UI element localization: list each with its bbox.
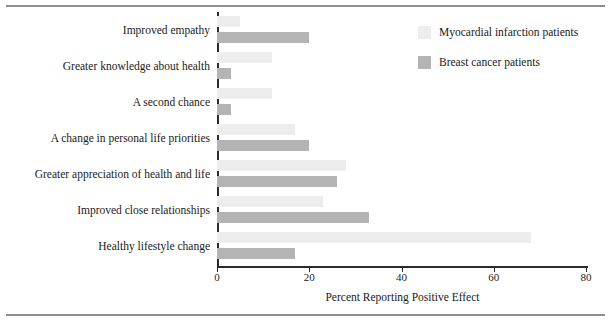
top-divider-rule xyxy=(6,5,605,7)
chart-category-row: Improved close relationships xyxy=(217,196,586,223)
y-axis-category-label: Improved close relationships xyxy=(77,204,210,217)
legend-item: Breast cancer patients xyxy=(418,52,578,72)
chart-legend: Myocardial infarction patientsBreast can… xyxy=(418,22,578,72)
chart-bar xyxy=(217,104,231,115)
y-axis-category-label: Improved empathy xyxy=(123,24,210,37)
x-axis-title: Percent Reporting Positive Effect xyxy=(217,291,588,303)
chart-bar xyxy=(217,140,309,151)
legend-label: Myocardial infarction patients xyxy=(439,26,578,39)
chart-bar xyxy=(217,160,346,171)
chart-bar xyxy=(217,32,309,43)
chart-figure: 020406080 Improved empathyGreater knowle… xyxy=(0,0,611,324)
x-axis-line xyxy=(217,266,588,268)
y-axis-category-label: A change in personal life priorities xyxy=(51,132,210,145)
chart-bar xyxy=(217,232,531,243)
x-axis-tick-label: 20 xyxy=(304,271,315,284)
bottom-divider-rule xyxy=(6,314,605,316)
legend-label: Breast cancer patients xyxy=(439,56,540,69)
chart-bar xyxy=(217,248,295,259)
chart-bar xyxy=(217,16,240,27)
x-axis-tick-label: 40 xyxy=(396,271,407,284)
y-axis-category-label: Greater appreciation of health and life xyxy=(35,168,210,181)
x-axis-tick-label: 0 xyxy=(214,271,220,284)
y-axis-category-label: Healthy lifestyle change xyxy=(98,240,210,253)
legend-swatch-icon xyxy=(418,26,431,39)
x-axis-tick-label: 80 xyxy=(581,271,592,284)
chart-bar xyxy=(217,176,337,187)
chart-bar xyxy=(217,88,272,99)
chart-category-row: Healthy lifestyle change xyxy=(217,232,586,259)
y-axis-category-label: Greater knowledge about health xyxy=(63,60,210,73)
y-axis-category-label: A second chance xyxy=(133,96,210,109)
chart-category-row: A second chance xyxy=(217,88,586,115)
chart-bar xyxy=(217,196,323,207)
legend-item: Myocardial infarction patients xyxy=(418,22,578,42)
chart-category-row: Greater appreciation of health and life xyxy=(217,160,586,187)
legend-swatch-icon xyxy=(418,56,431,69)
chart-category-row: A change in personal life priorities xyxy=(217,124,586,151)
chart-bar xyxy=(217,52,272,63)
chart-bar xyxy=(217,68,231,79)
chart-bar xyxy=(217,212,369,223)
x-axis-tick-label: 60 xyxy=(488,271,499,284)
chart-bar xyxy=(217,124,295,135)
